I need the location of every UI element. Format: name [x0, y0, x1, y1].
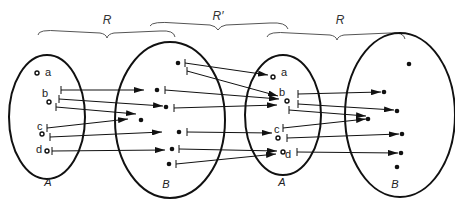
element-label-d: d: [285, 148, 291, 160]
arrow-tails-R-prime: [165, 59, 187, 168]
element-label-c: c: [37, 120, 43, 132]
relation-label-R-prime: R′: [213, 9, 225, 23]
element-label-a: a: [45, 66, 52, 78]
set-B-left: [115, 42, 225, 198]
arrows-R-left: [47, 90, 165, 151]
arrow-tails-R-left: [47, 86, 61, 155]
element-label-d: d: [36, 143, 42, 155]
element-label-c: c: [274, 123, 280, 135]
element-label-b: b: [42, 87, 48, 99]
relation-label-R: R: [336, 13, 345, 27]
relation-label-R: R: [103, 13, 112, 27]
element-label-b: b: [279, 86, 285, 98]
element-label-a: a: [281, 66, 288, 78]
relation-diagram: R R′ R a b c d a b c d: [0, 0, 455, 201]
brace-R-prime: [150, 22, 288, 30]
arrows-R-right: [283, 92, 399, 153]
set-label-A-right: A: [277, 176, 285, 188]
elements-A-left: [35, 71, 51, 153]
set-B-right: [345, 33, 455, 197]
set-label-A-left: A: [43, 176, 51, 188]
set-label-B-right: B: [391, 178, 398, 190]
set-label-B-left: B: [162, 178, 169, 190]
brace-R-left: [38, 31, 175, 39]
